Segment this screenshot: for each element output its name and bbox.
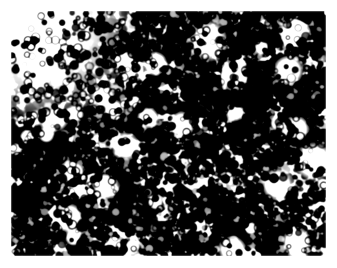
micrograph-frame [11, 11, 326, 256]
histology-micrograph-image [11, 11, 326, 256]
micrograph-page: High-contrast black and white histologic… [0, 0, 337, 268]
